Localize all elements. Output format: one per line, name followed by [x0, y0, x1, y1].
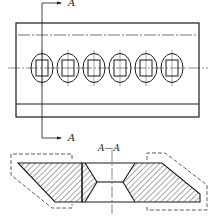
section-marker-bottom: A [68, 133, 75, 143]
hatched-left [18, 163, 82, 202]
technical-drawing [0, 0, 213, 221]
hatched-right [123, 163, 200, 202]
arrow-icon [57, 2, 62, 5]
section-cut-line [42, 2, 62, 140]
section-marker-top: A [68, 0, 75, 8]
section-view [11, 150, 207, 214]
plate-outline [16, 23, 199, 117]
hatched-left-inner [82, 163, 97, 202]
plan-view [8, 2, 208, 140]
section-title: A—A [98, 144, 120, 153]
hole-2 [57, 50, 79, 86]
arrow-icon [57, 137, 62, 140]
